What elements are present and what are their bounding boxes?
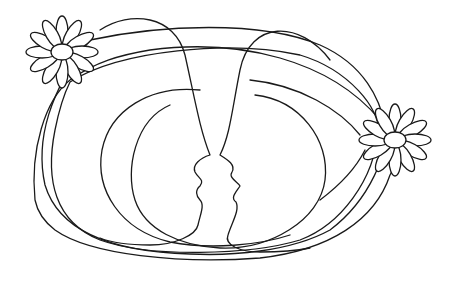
daisy-center-left — [51, 44, 73, 60]
inner-loop-left — [101, 89, 290, 246]
outer-loop-3 — [34, 47, 395, 260]
line-art-drawing — [0, 0, 455, 283]
outer-loop-1 — [42, 28, 386, 255]
face-profile-right — [220, 31, 330, 252]
daisy-right — [359, 104, 431, 176]
face-profile-left — [100, 19, 210, 245]
sweep-to-right-daisy-1 — [250, 80, 360, 135]
daisy-top-left — [26, 16, 98, 88]
sweep-to-right-daisy-2 — [320, 150, 365, 200]
inner-loop-right — [131, 95, 325, 248]
daisy-center-right — [384, 132, 406, 148]
